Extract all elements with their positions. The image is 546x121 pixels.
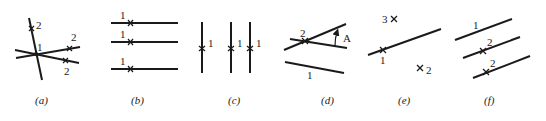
line-1 [285, 62, 344, 73]
label-b-2: 1 [120, 28, 126, 40]
label-d-lower: 1 [307, 69, 313, 81]
line-1 [455, 19, 512, 40]
label-f-2: 2 [487, 36, 493, 48]
label-c-3: 1 [256, 37, 262, 49]
figure-canvas: 2 1 2 2 (a) 1 1 1 (b) 1 1 1 (c) 2 [0, 0, 546, 121]
panel-e: 3 1 2 (e) [368, 13, 441, 107]
label-e-point1: 1 [380, 54, 386, 66]
panel-d: 2 A 1 (d) [284, 24, 351, 107]
angle-arc-arrow [335, 32, 337, 46]
caption-d: (d) [321, 94, 334, 107]
label-a-right-upper: 2 [71, 31, 77, 43]
label-c-1: 1 [208, 37, 214, 49]
caption-a: (a) [35, 94, 48, 107]
label-a-top: 2 [36, 19, 42, 31]
label-d-intersection: 2 [300, 27, 306, 39]
panel-c: 1 1 1 (c) [199, 22, 262, 107]
caption-c: (c) [228, 94, 241, 107]
label-b-3: 1 [120, 55, 126, 67]
label-e-point2: 2 [426, 64, 432, 76]
cross-mark-point3 [391, 16, 397, 22]
label-e-point3: 3 [382, 13, 388, 25]
cross-mark-point2 [417, 65, 423, 71]
label-b-1: 1 [120, 9, 126, 21]
caption-f: (f) [484, 94, 495, 107]
line [368, 29, 441, 55]
label-d-angle: A [343, 32, 351, 44]
line-3 [473, 56, 530, 78]
panel-a: 2 1 2 2 (a) [15, 18, 80, 107]
label-a-center: 1 [37, 41, 43, 53]
label-a-right-lower: 2 [64, 65, 70, 77]
caption-e: (e) [398, 94, 411, 107]
panel-b: 1 1 1 (b) [111, 9, 178, 107]
label-f-3: 2 [490, 57, 496, 69]
label-f-1: 1 [473, 19, 479, 31]
caption-b: (b) [131, 94, 144, 107]
panel-f: 1 2 2 (f) [455, 19, 530, 107]
label-c-2: 1 [237, 37, 243, 49]
